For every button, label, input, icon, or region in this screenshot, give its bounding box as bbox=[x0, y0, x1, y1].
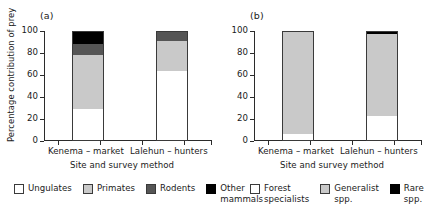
legend-swatch-ungulates-icon bbox=[14, 184, 24, 194]
legend-item-rodents[interactable]: Rodents bbox=[146, 183, 195, 194]
segment-rodents-lalehun bbox=[157, 32, 187, 41]
x-tick-a-4 bbox=[184, 141, 185, 145]
x-axis-title-b: Site and survey method bbox=[280, 160, 384, 170]
x-tick-b-2 bbox=[310, 141, 311, 145]
legend-panel-b: Forest specialists Generalist spp. Rare … bbox=[250, 183, 436, 213]
y-axis-line-b bbox=[254, 31, 255, 141]
bar-a-kenema[interactable] bbox=[72, 31, 104, 141]
segment-forest-specialists-kenema bbox=[283, 134, 313, 140]
plot-area-b: 0 20 40 60 80 bbox=[254, 31, 422, 141]
y-axis-title: Percentage contribution of prey bbox=[6, 12, 16, 142]
x-axis-title-a: Site and survey method bbox=[70, 160, 174, 170]
panel-a-label: (a) bbox=[40, 10, 54, 21]
panel-b: (b) 0 20 40 60 bbox=[224, 0, 436, 178]
legend-label-rare-spp: Rare spp. bbox=[404, 183, 425, 204]
y-tick-label-40-b: 40 bbox=[237, 91, 248, 101]
y-tick-label-100-a: 100 bbox=[22, 25, 38, 35]
y-tick-label-60-a: 60 bbox=[27, 69, 38, 79]
x-tick-b-4 bbox=[394, 141, 395, 145]
legend-swatch-other-mammals-icon bbox=[206, 184, 216, 194]
x-label-b-lalehun: Lalehun – hunters bbox=[340, 146, 418, 156]
segment-generalist-spp-lalehun bbox=[367, 34, 397, 116]
legend-swatch-rare-spp-icon bbox=[390, 184, 400, 194]
x-tick-a-5 bbox=[211, 141, 212, 145]
bar-a-lalehun[interactable] bbox=[156, 31, 188, 141]
segment-rodents-kenema bbox=[73, 44, 103, 55]
segment-primates-kenema bbox=[73, 55, 103, 109]
x-tick-a-3 bbox=[142, 141, 143, 145]
x-label-a-lalehun: Lalehun – hunters bbox=[130, 146, 208, 156]
y-tick-label-0-b: 0 bbox=[243, 135, 248, 145]
legend-panel-a: Ungulates Primates Rodents Other mammals bbox=[14, 183, 271, 213]
panel-b-label: (b) bbox=[250, 10, 264, 21]
panel-a: (a) Percentage contribution of prey 0 20… bbox=[0, 0, 224, 178]
segment-ungulates-kenema bbox=[73, 109, 103, 140]
y-tick-label-60-b: 60 bbox=[237, 69, 248, 79]
y-tick-label-80-a: 80 bbox=[27, 47, 38, 57]
segment-primates-lalehun bbox=[157, 41, 187, 71]
legend-label-forest-specialists: Forest specialists bbox=[264, 183, 309, 204]
segment-generalist-spp-kenema bbox=[283, 32, 313, 134]
y-tick-label-0-a: 0 bbox=[33, 135, 38, 145]
plot-area-a: 0 20 40 60 80 bbox=[44, 31, 212, 141]
legend-swatch-rodents-icon bbox=[146, 184, 156, 194]
x-tick-b-3 bbox=[352, 141, 353, 145]
y-tick-label-20-a: 20 bbox=[27, 113, 38, 123]
y-axis-line-a bbox=[44, 31, 45, 141]
x-label-b-kenema: Kenema – market bbox=[258, 146, 334, 156]
legend-swatch-primates-icon bbox=[83, 184, 93, 194]
y-tick-label-80-b: 80 bbox=[237, 47, 248, 57]
figure-container: (a) Percentage contribution of prey 0 20… bbox=[0, 0, 436, 216]
x-tick-a-1 bbox=[58, 141, 59, 145]
legend-item-rare-spp[interactable]: Rare spp. bbox=[390, 183, 425, 204]
x-tick-b-1 bbox=[268, 141, 269, 145]
segment-ungulates-lalehun bbox=[157, 71, 187, 140]
legend-item-generalist-spp[interactable]: Generalist spp. bbox=[320, 183, 379, 204]
segment-other-mammals-kenema bbox=[73, 32, 103, 44]
bar-b-kenema[interactable] bbox=[282, 31, 314, 141]
x-tick-a-2 bbox=[100, 141, 101, 145]
x-tick-b-5 bbox=[421, 141, 422, 145]
y-tick-label-20-b: 20 bbox=[237, 113, 248, 123]
legend-label-primates: Primates bbox=[97, 183, 135, 194]
legend-label-generalist-spp: Generalist spp. bbox=[334, 183, 379, 204]
bar-b-lalehun[interactable] bbox=[366, 31, 398, 141]
legend-label-ungulates: Ungulates bbox=[28, 183, 72, 194]
y-tick-label-40-a: 40 bbox=[27, 91, 38, 101]
legend-swatch-generalist-spp-icon bbox=[320, 184, 330, 194]
legend-item-ungulates[interactable]: Ungulates bbox=[14, 183, 72, 194]
legend-item-primates[interactable]: Primates bbox=[83, 183, 135, 194]
x-label-a-kenema: Kenema – market bbox=[48, 146, 124, 156]
panels-area: (a) Percentage contribution of prey 0 20… bbox=[0, 0, 436, 178]
segment-forest-specialists-lalehun bbox=[367, 116, 397, 140]
legend-swatch-forest-specialists-icon bbox=[250, 184, 260, 194]
legend-label-rodents: Rodents bbox=[160, 183, 195, 194]
y-tick-label-100-b: 100 bbox=[232, 25, 248, 35]
legend-item-forest-specialists[interactable]: Forest specialists bbox=[250, 183, 309, 204]
